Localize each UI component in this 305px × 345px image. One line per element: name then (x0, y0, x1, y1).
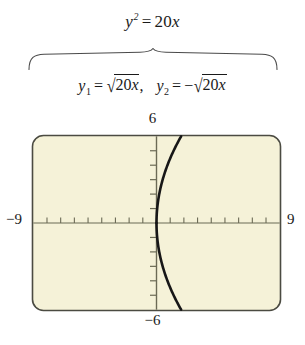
branch-2-radicand-variable: x (219, 76, 226, 93)
branch-equation-2: y2=−√20x (156, 77, 226, 94)
branch-1-variable: y (78, 77, 85, 94)
calculator-viewport (0, 110, 305, 345)
y-max-label: 6 (0, 110, 305, 127)
y-min-label: −6 (0, 312, 305, 329)
main-equation-rhs-variable: x (172, 12, 180, 31)
branch-2-variable: y (156, 77, 163, 94)
branch-1-radicand-variable: x (131, 76, 138, 93)
branch-2-subscript: 2 (164, 86, 169, 97)
curly-brace-icon (28, 48, 278, 70)
branch-1-radicand: 20x (114, 74, 139, 94)
graph-area: 6 −6 −9 9 (0, 110, 305, 345)
branch-2-radicand-coefficient: 20 (203, 76, 219, 93)
main-equation: y2=20x (0, 12, 305, 32)
branch-2-equals: = (172, 77, 181, 94)
branch-1-radicand-coefficient: 20 (115, 76, 131, 93)
branch-equations: y1=√20x, y2=−√20x (0, 74, 305, 96)
branch-1-radical: √20x (106, 74, 140, 96)
equations-separator: , (139, 77, 143, 94)
equation-block: y2=20x y1=√20x, y2=−√20x (0, 0, 305, 112)
branch-1-equals: = (94, 77, 103, 94)
branch-equation-1: y1=√20x (78, 77, 139, 94)
branch-2-radicand: 20x (202, 74, 227, 94)
x-max-label: 9 (287, 211, 295, 228)
main-equation-coefficient: 20 (155, 12, 172, 31)
main-equation-equals: = (142, 12, 152, 31)
x-min-label: −9 (6, 211, 22, 228)
branch-2-radical: √20x (193, 74, 227, 96)
branch-2-negative-sign: − (184, 77, 193, 94)
main-equation-exponent: 2 (134, 11, 139, 22)
curly-brace (28, 48, 278, 70)
branch-1-subscript: 1 (86, 86, 91, 97)
main-equation-lhs-variable: y (125, 12, 133, 31)
